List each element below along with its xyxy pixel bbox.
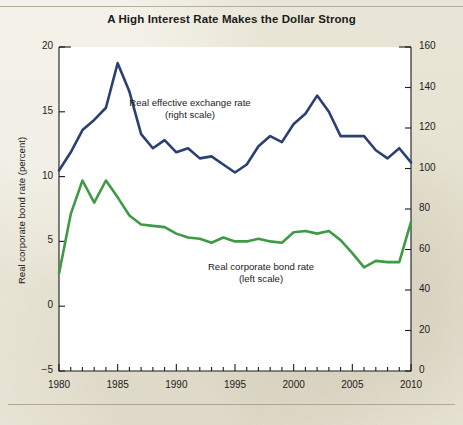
x-axis-tick-label: 1980 [37, 379, 81, 390]
x-axis-tick-label: 1990 [154, 379, 198, 390]
x-axis-tick-label: 2005 [330, 379, 374, 390]
right-axis-tick-label: 140 [419, 81, 445, 92]
chart-svg [0, 0, 463, 425]
x-axis-tick-label: 1995 [213, 379, 257, 390]
left-axis-label: Real corporate bond rate (percent) [16, 126, 27, 296]
bond-rate-annotation-line1: Real corporate bond rate [186, 261, 336, 273]
right-axis-tick-label: 100 [419, 162, 445, 173]
exchange-rate-annotation-line1: Real effective exchange rate [115, 97, 265, 109]
left-axis-tick-label: 5 [27, 234, 53, 245]
figure-chart: A High Interest Rate Makes the Dollar St… [0, 0, 463, 425]
x-axis-tick-label: 1985 [96, 379, 140, 390]
right-axis-tick-label: 20 [419, 324, 445, 335]
left-axis-tick-label: 0 [27, 299, 53, 310]
x-axis-tick-label: 2010 [389, 379, 433, 390]
right-axis-tick-label: 40 [419, 283, 445, 294]
left-axis-tick-label: −5 [27, 364, 53, 375]
bond-rate-annotation: Real corporate bond rate (left scale) [186, 261, 336, 285]
x-axis-tick-label: 2000 [272, 379, 316, 390]
right-axis-tick-label: 60 [419, 243, 445, 254]
exchange-rate-annotation: Real effective exchange rate (right scal… [115, 97, 265, 121]
plot-background [59, 47, 411, 371]
left-axis-tick-label: 10 [27, 170, 53, 181]
right-axis-tick-label: 80 [419, 202, 445, 213]
left-axis-tick-label: 15 [27, 105, 53, 116]
exchange-rate-annotation-line2: (right scale) [115, 109, 265, 121]
bond-rate-annotation-line2: (left scale) [186, 273, 336, 285]
right-axis-tick-label: 160 [419, 40, 445, 51]
plot-area: Real corporate bond rate (percent) Real … [0, 0, 463, 425]
right-axis-tick-label: 120 [419, 121, 445, 132]
right-axis-tick-label: 0 [419, 364, 445, 375]
left-axis-tick-label: 20 [27, 40, 53, 51]
